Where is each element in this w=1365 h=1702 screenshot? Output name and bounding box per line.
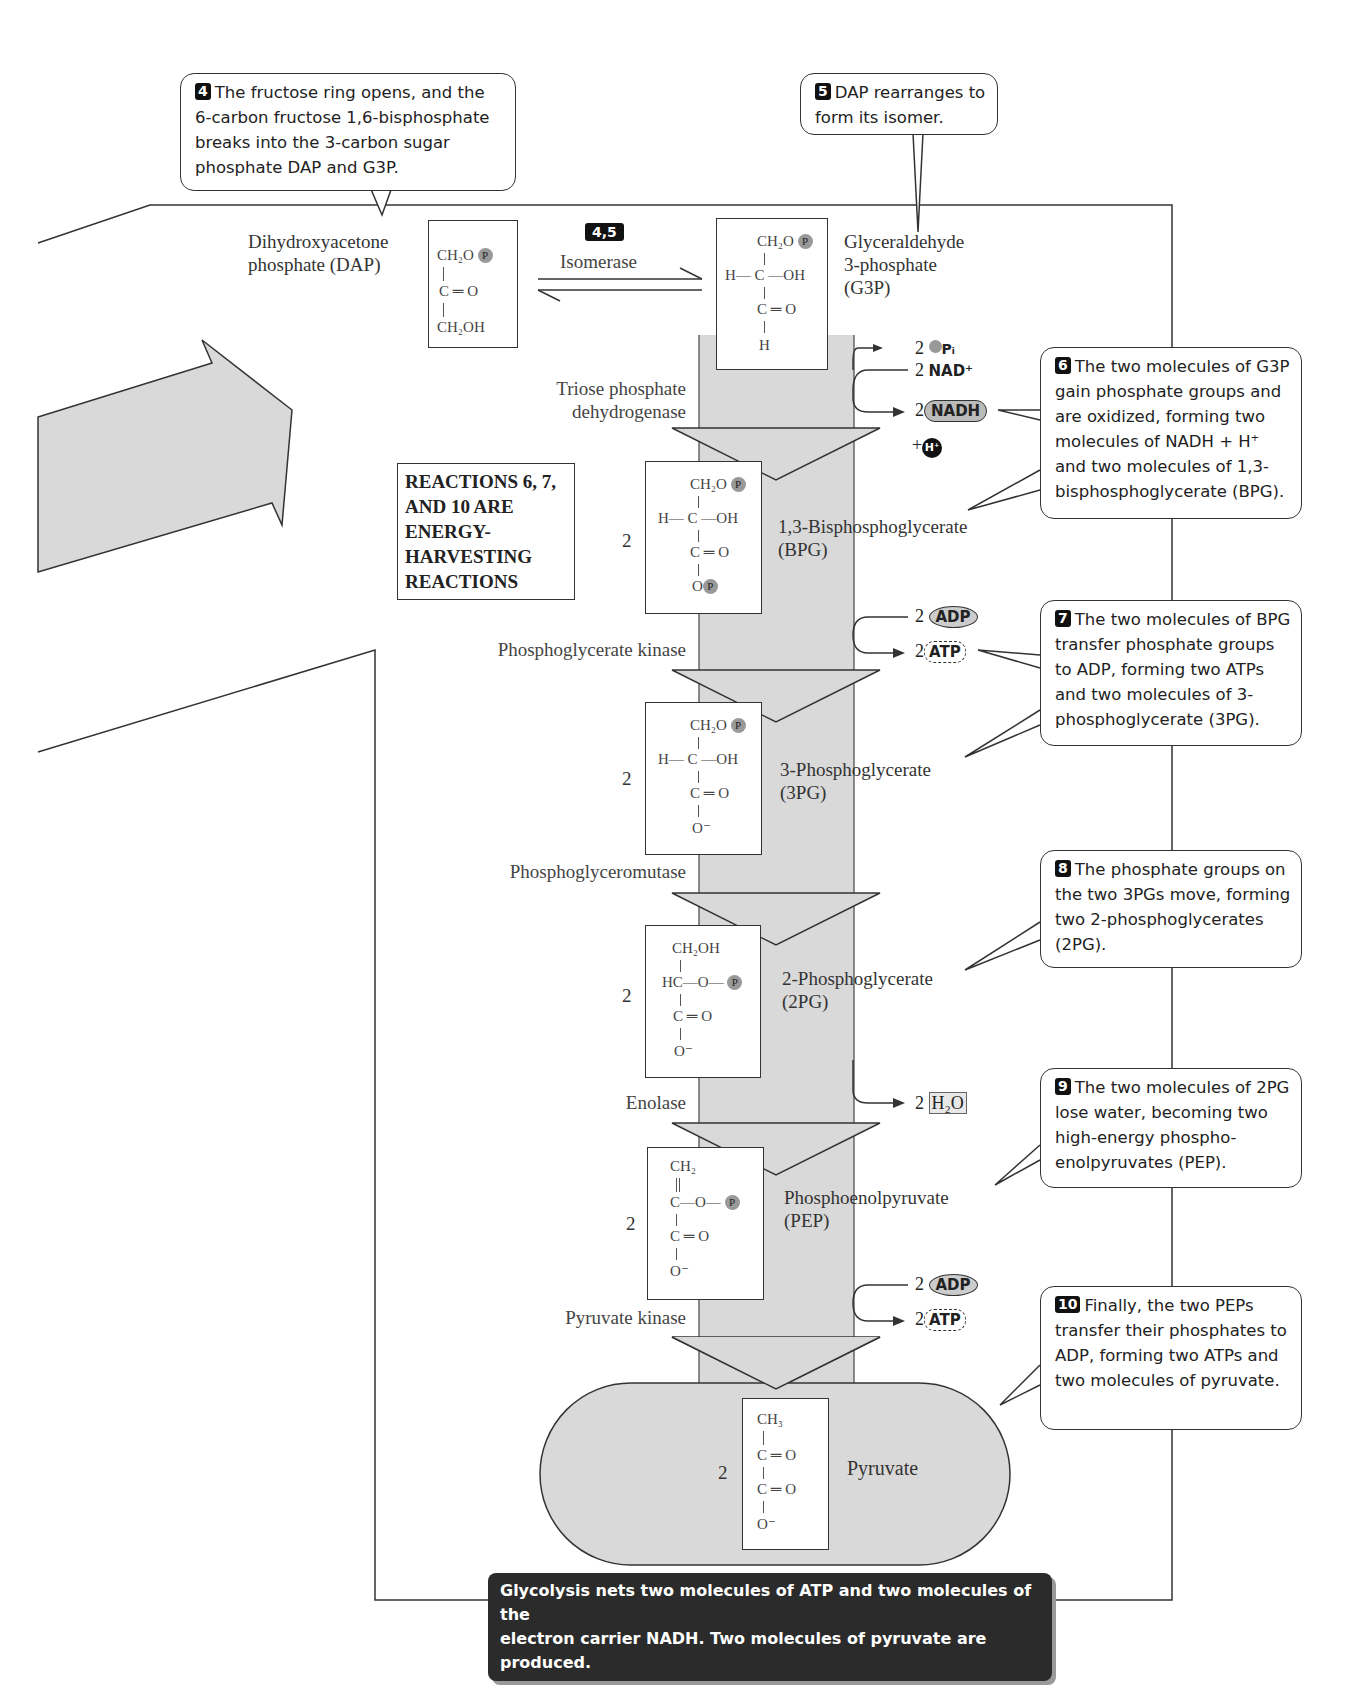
phosphate-icon: P [731,477,746,492]
enzyme-triose-phosphate-dehydrogenase: Triose phosphate dehydrogenase [520,377,686,423]
step-number-badge: 7 [1055,610,1071,627]
dap-structure: CH₂O P C ═ O CH₂OH [428,220,518,348]
formula-line: CH₂O [757,233,794,249]
2pg-name-line1: 2-Phosphoglycerate [782,967,933,990]
phosphate-icon: P [725,1195,740,1210]
phosphate-icon: P [478,248,493,263]
atp-burst-icon: ATP [924,1309,966,1331]
note-line: HARVESTING [405,544,567,569]
callout-text: Finally, the two PEPs transfer their pho… [1055,1296,1287,1390]
step-number-badge: 4 [195,83,211,100]
g3p-structure: CH₂O P H— C —OH C ═ O H [716,218,828,370]
formula-line: C—O— [670,1194,721,1210]
side-nadh: 2NADH [915,400,987,422]
3pg-name-line2: (3PG) [780,781,931,804]
coefficient: 2 [915,400,924,420]
side-adp-step10: 2 ADP [915,1274,978,1296]
2pg-name-line2: (2PG) [782,990,933,1013]
callout-text: The phosphate groups on the two 3PGs mov… [1055,860,1290,954]
enzyme-enolase: Enolase [560,1091,686,1114]
step-number-badge: 10 [1055,1296,1080,1313]
formula-line: C ═ O [670,1228,709,1245]
pep-name-line1: Phosphoenolpyruvate [784,1186,949,1209]
bpg-coefficient: 2 [622,530,632,552]
pep-name-line2: (PEP) [784,1209,949,1232]
summary-line2: electron carrier NADH. Two molecules of … [500,1627,1040,1675]
coefficient: 2 [915,1093,924,1113]
3pg-label: 3-Phosphoglycerate (3PG) [780,758,931,804]
formula-line: CH₂OH [672,940,720,957]
pep-coefficient: 2 [626,1213,636,1235]
bpg-structure: CH₂O P H— C —OH C ═ O OP [645,461,762,614]
formula-line: O [692,578,703,594]
coefficient: 2 [915,641,924,661]
2pg-label: 2-Phosphoglycerate (2PG) [782,967,933,1013]
formula-line: C ═ O [673,1008,712,1025]
side-atp-step10: 2ATP [915,1309,966,1331]
step-badge-4-5: 4,5 [585,223,624,241]
g3p-label: Glyceraldehyde 3-phosphate (G3P) [844,230,964,299]
summary-line1: Glycolysis nets two molecules of ATP and… [500,1579,1040,1627]
incoming-arrow-icon [38,340,292,572]
energy-harvesting-note: REACTIONS 6, 7, AND 10 ARE ENERGY- HARVE… [397,463,575,600]
coefficient: 2 [915,360,924,380]
formula-line: H— C —OH [658,510,738,527]
formula-line: CH₂ [670,1158,696,1175]
formula-line: H— C —OH [725,267,805,284]
callout-text: The fructose ring opens, and the 6-carbo… [195,83,490,177]
side-adp-step7: 2 ADP [915,606,978,628]
plus-sign: + [912,435,922,455]
formula-line: C ═ O [690,785,729,802]
formula-line: O⁻ [692,819,711,837]
pi-label: Pᵢ [942,341,955,357]
formula-line: CH₂OH [437,319,485,336]
bpg-label: 1,3-Bisphosphoglycerate (BPG) [778,515,967,561]
bpg-name-line2: (BPG) [778,538,967,561]
formula-line: C ═ O [757,301,796,318]
phosphate-icon: P [731,718,746,733]
side-h: +H⁺ [912,435,942,458]
pyruvate-coefficient: 2 [718,1462,728,1484]
adp-pill: ADP [929,1274,978,1296]
bpg-name-line1: 1,3-Bisphosphoglycerate [778,515,967,538]
2pg-coefficient: 2 [622,985,632,1007]
g3p-name-line3: (G3P) [844,276,964,299]
formula-line: O⁻ [757,1515,776,1533]
phosphate-icon [929,340,942,353]
dap-label: Dihydroxyacetone phosphate (DAP) [248,230,388,276]
enzyme-phosphoglyceromutase: Phosphoglyceromutase [440,860,686,883]
3pg-structure: CH₂O P H— C —OH C ═ O O⁻ [645,702,762,855]
step-number-badge: 9 [1055,1078,1071,1095]
pyruvate-structure: CH₃ C ═ O C ═ O O⁻ [742,1398,829,1550]
side-nad: 2 NAD⁺ [915,360,973,381]
coefficient: 2 [915,1274,924,1294]
2pg-structure: CH₂OH HC—O— P C ═ O O⁻ [645,925,761,1078]
formula-line: CH₂O [690,476,727,492]
side-atp-step7: 2ATP [915,641,966,663]
summary-banner: Glycolysis nets two molecules of ATP and… [488,1573,1052,1681]
enzyme-pyruvate-kinase: Pyruvate kinase [500,1306,686,1329]
pep-structure: CH₂ C—O— P C ═ O O⁻ [647,1147,764,1300]
pep-label: Phosphoenolpyruvate (PEP) [784,1186,949,1232]
enzyme-name-line1: Triose phosphate [520,377,686,400]
formula-line: H [759,337,770,354]
enzyme-phosphoglycerate-kinase: Phosphoglycerate kinase [440,638,686,661]
formula-line: C ═ O [757,1447,796,1464]
proton-icon: H⁺ [922,438,942,458]
callout-text: The two molecules of G3P gain phosphate … [1055,357,1289,501]
coefficient: 2 [915,606,924,626]
step-number-badge: 6 [1055,357,1071,374]
formula-line: CH₂O [690,717,727,733]
water-box: H₂O [929,1092,967,1114]
callout-text: The two molecules of BPG transfer phosph… [1055,610,1290,729]
note-line: ENERGY- [405,519,567,544]
enzyme-name-line2: dehydrogenase [520,400,686,423]
dap-name-line1: Dihydroxyacetone [248,230,388,253]
pyruvate-label: Pyruvate [847,1457,918,1480]
atp-burst-icon: ATP [924,641,966,663]
nad-label: NAD⁺ [929,362,974,380]
note-line: REACTIONS [405,569,567,594]
adp-pill: ADP [929,606,978,628]
formula-line: CH₃ [757,1411,783,1428]
formula-line: HC—O— [662,974,724,990]
